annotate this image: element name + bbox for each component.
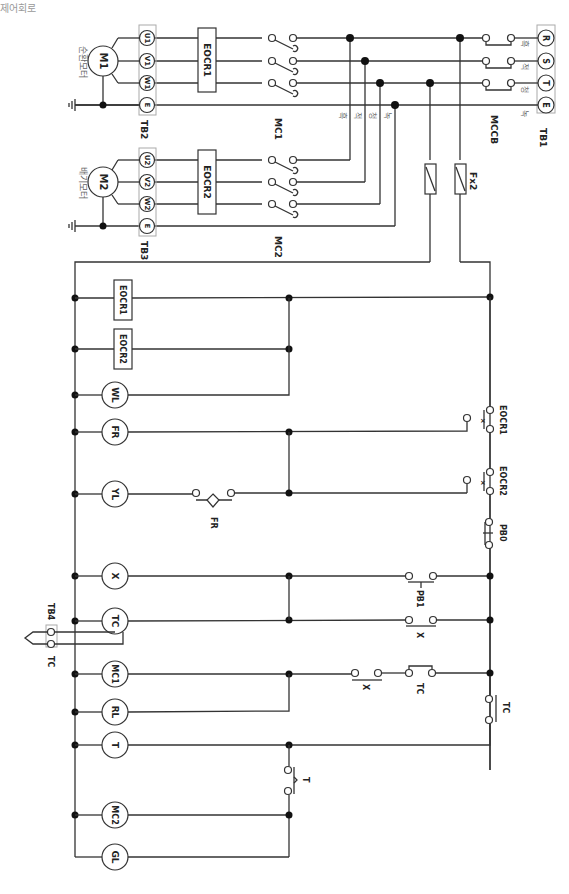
wl-label: WL (110, 387, 120, 403)
wire-color-e: 녹 (520, 110, 529, 117)
m2-name: 배기모터 (78, 167, 88, 199)
phase-label-3: 청 (368, 112, 377, 119)
mccb-label: MCCB (489, 115, 499, 144)
eocr1-power-label: EOCR1 (202, 43, 212, 77)
wire-color-r: 흑 (520, 40, 530, 47)
tb3-v2: V2 (143, 177, 151, 187)
wire-color-t: 청 (520, 86, 529, 93)
ground-icon-2 (69, 220, 75, 232)
phase-label-2: 적 (353, 112, 363, 119)
tb4-label: TB4 (46, 603, 55, 621)
gl-label: GL (110, 850, 120, 863)
m1-name: 순환모터 (78, 46, 89, 78)
t-label: T (110, 742, 120, 749)
eocr2-contact-label: EOCR2 (498, 466, 507, 496)
pb0-label: PB0 (498, 524, 507, 542)
fuse-label: Fx2 (468, 172, 478, 190)
tc-contact-2-label: TC (501, 702, 510, 713)
thermocouple-icon (25, 632, 47, 644)
tb1-s: S (541, 58, 550, 64)
tb2-w1: W1 (143, 77, 151, 90)
rl-label: RL (110, 706, 120, 719)
tb1-terminals: R S T E (538, 30, 554, 113)
ground-icon-1 (69, 99, 75, 111)
x-label: X (110, 573, 120, 580)
tb3-label: TB3 (139, 241, 149, 260)
mc1-label: MC1 (273, 118, 283, 140)
svg-text:×: × (480, 479, 486, 487)
tb1-t: T (541, 80, 550, 86)
tb2-terminals: U1 V1 W1 E (140, 31, 155, 113)
tb1-label: TB1 (538, 128, 548, 147)
t-contact-label: T (301, 777, 310, 783)
mc1-coil-label: MC1 (110, 664, 119, 684)
fr-label: FR (110, 425, 120, 438)
mc2-contacts (269, 157, 298, 218)
tb3-w2: W2 (143, 198, 151, 211)
x-contact-2-label: X (361, 684, 370, 691)
eocr2-coil-label: EOCR2 (118, 334, 127, 364)
eocr2-power-label: EOCR2 (202, 165, 212, 199)
phase-label-4: 녹 (383, 112, 392, 119)
eocr1-contact-label: EOCR1 (498, 405, 507, 435)
float-switch-icon (207, 494, 219, 507)
mc2-coil-label: MC2 (110, 805, 119, 824)
wire-color-s: 적 (520, 63, 530, 70)
tb3-u2: U2 (143, 155, 151, 166)
svg-text:×: × (480, 417, 486, 425)
eocr1-coil-label: EOCR1 (118, 285, 127, 315)
fr-contact-label: FR (209, 517, 218, 529)
tb2-label: TB2 (139, 120, 149, 139)
tc-contact-1-label: TC (415, 683, 424, 694)
tb4-sensor-label: TC (46, 656, 55, 667)
schematic-diagram: R S T E TB1 흑 적 청 녹 MCCB EOCR1 MC1 (0, 0, 569, 894)
tb2-u1: U1 (143, 33, 151, 44)
tb2-e: E (143, 103, 151, 108)
mc1-contacts (269, 35, 298, 97)
tb1-r: R (541, 35, 550, 41)
tc-label: TC (110, 615, 120, 628)
tb3-terminals: U2 V2 W2 E (140, 153, 155, 234)
yl-label: YL (110, 487, 120, 501)
x-contact-1-label: X (415, 632, 424, 639)
phase-label-1: 흑 (338, 112, 348, 119)
m2-label: M2 (98, 174, 109, 191)
pb1-label: PB1 (415, 590, 424, 608)
tb3-e: E (143, 224, 151, 229)
tb2-v1: V1 (143, 56, 151, 66)
tb1-e: E (541, 102, 550, 107)
mc2-label: MC2 (273, 236, 283, 258)
m1-label: M1 (98, 53, 109, 70)
